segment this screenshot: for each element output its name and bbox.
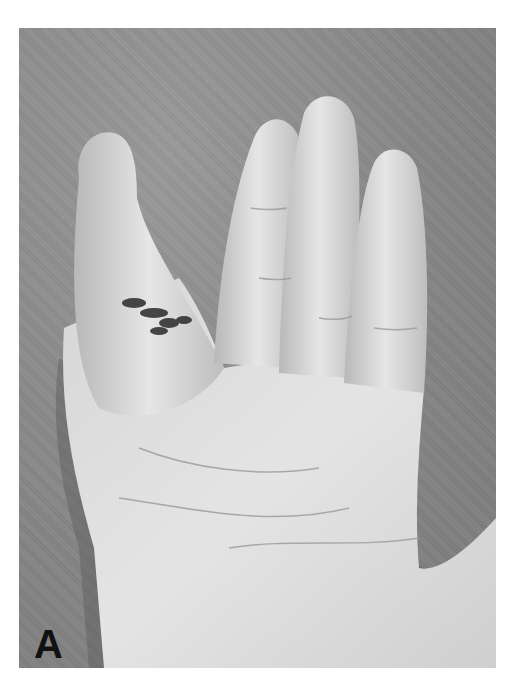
hand-illustration <box>19 28 496 668</box>
clinical-photo: A <box>19 28 496 668</box>
panel-label: A <box>34 624 63 664</box>
thumb <box>74 132 224 416</box>
